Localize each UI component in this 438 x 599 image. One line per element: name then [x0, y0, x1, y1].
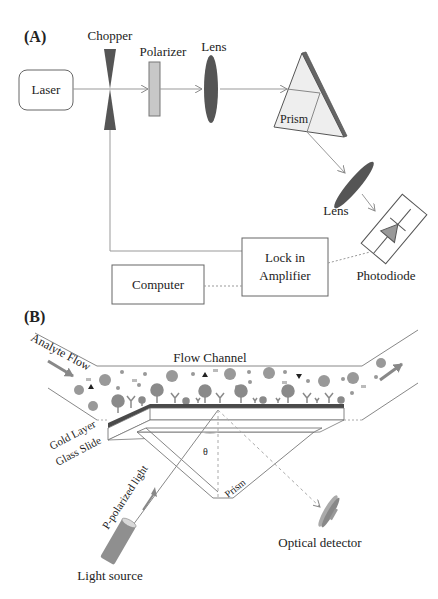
lens-1-label: Lens: [201, 39, 226, 54]
polarizer-label: Polarizer: [140, 44, 188, 59]
lock-in-amplifier-box: Lock in Amplifier: [242, 238, 328, 296]
lens-1-icon: [204, 55, 218, 123]
spr-diagram: (A) Laser Chopper Polarizer Lens Prism L…: [0, 0, 438, 599]
computer-label: Computer: [132, 277, 185, 292]
laser-box: Laser: [19, 70, 73, 110]
theta-label: θ: [203, 446, 208, 457]
lockin-label-2: Amplifier: [259, 268, 311, 283]
light-source-label: Light source: [77, 568, 143, 583]
flow-channel-label: Flow Channel: [173, 350, 247, 365]
panel-a-label: (A): [24, 28, 46, 46]
photodiode-label: Photodiode: [356, 268, 415, 283]
panel-b-label: (B): [24, 308, 45, 326]
lens-2-label: Lens: [323, 203, 348, 218]
optical-detector-label: Optical detector: [278, 535, 362, 550]
prism-a: Prism: [274, 52, 347, 137]
optical-detector-icon: [316, 493, 344, 530]
polarizer-icon: [149, 62, 160, 116]
laser-label: Laser: [32, 82, 62, 97]
lockin-label-1: Lock in: [265, 250, 306, 265]
computer-box: Computer: [112, 265, 204, 304]
photodiode-icon: [361, 194, 427, 264]
chopper-label: Chopper: [88, 28, 133, 43]
prism-a-label: Prism: [280, 112, 309, 126]
